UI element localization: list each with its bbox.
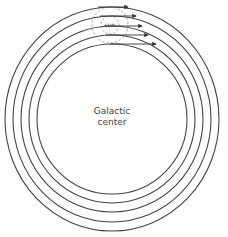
galactic-rotation-diagram: Galactic center sun [0,0,228,237]
center-label-line1: Galactic [94,106,130,116]
center-label-line2: center [98,117,127,127]
sun-label: sun [105,21,116,28]
